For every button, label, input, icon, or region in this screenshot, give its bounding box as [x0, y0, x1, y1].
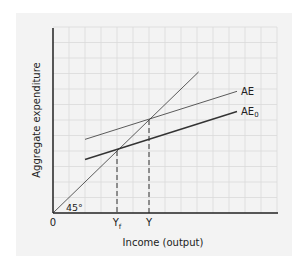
series-label: AE — [241, 86, 254, 97]
x-axis-label: Income (output) — [123, 237, 204, 248]
series-ae — [85, 91, 237, 139]
x-tick-label: Y — [145, 217, 153, 228]
series-lines — [53, 72, 237, 213]
series-45-line — [53, 72, 199, 213]
angle-label: 45° — [66, 202, 83, 213]
y-axis-label: Aggregate expenditure — [31, 62, 42, 177]
origin-label: 0 — [50, 217, 56, 228]
x-tick-label: Yf — [112, 217, 122, 231]
chart: AEAE0YfY 0 45° Income (output) Aggregate… — [0, 0, 307, 270]
series-label: AE0 — [241, 106, 259, 120]
grid — [53, 27, 277, 213]
